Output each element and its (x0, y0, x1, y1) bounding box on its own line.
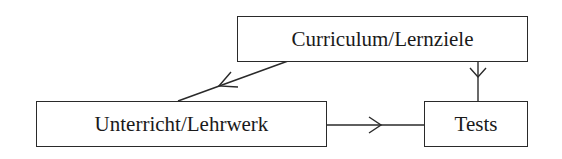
edge-curriculum-unterricht (178, 61, 288, 101)
node-curriculum: Curriculum/Lernziele (237, 16, 528, 62)
node-label: Tests (455, 112, 498, 137)
node-tests: Tests (424, 101, 528, 147)
node-label: Unterricht/Lehrwerk (95, 112, 269, 137)
node-label: Curriculum/Lernziele (292, 27, 474, 52)
node-unterricht: Unterricht/Lehrwerk (36, 101, 327, 147)
